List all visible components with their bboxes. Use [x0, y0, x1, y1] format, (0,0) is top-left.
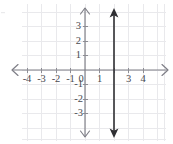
- x-tick-label-neg2: -2: [52, 73, 61, 84]
- coordinate-plane-svg: -4 -3 -2 -1 0 1 3 4 3 2 1 -1 -2 -3: [0, 0, 173, 144]
- y-tick-label-neg1: -1: [74, 78, 83, 89]
- x-tick-label-neg3: -3: [37, 73, 46, 84]
- scan-artifact: [1, 12, 5, 13]
- x-tick-label-4: 4: [140, 73, 146, 84]
- graph-figure: -4 -3 -2 -1 0 1 3 4 3 2 1 -1 -2 -3: [0, 0, 173, 144]
- y-tick-label-neg2: -2: [74, 93, 83, 104]
- x-tick-label-1: 1: [97, 73, 102, 84]
- y-tick-label-1: 1: [76, 49, 81, 60]
- y-tick-label-3: 3: [76, 20, 81, 31]
- y-tick-label-2: 2: [76, 35, 81, 46]
- x-tick-label-neg4: -4: [23, 73, 32, 84]
- x-tick-label-3: 3: [126, 73, 131, 84]
- y-tick-label-neg3: -3: [74, 107, 83, 118]
